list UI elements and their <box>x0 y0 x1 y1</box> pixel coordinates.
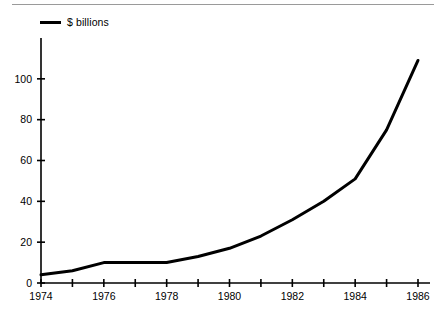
line-chart-plot: 020406080100 197419761978198019821984198… <box>0 0 446 323</box>
chart-series-layer <box>41 60 418 274</box>
x-axis-tick-label: 1976 <box>92 290 116 302</box>
series-line <box>41 60 418 274</box>
y-axis-tick-label: 100 <box>14 73 32 85</box>
y-axis-tick-label: 0 <box>26 277 32 289</box>
y-axis-tick-label: 20 <box>20 236 32 248</box>
chart-svg: 020406080100 197419761978198019821984198… <box>0 0 446 323</box>
x-axis-tick-label: 1984 <box>343 290 367 302</box>
y-axis-tick-label: 60 <box>20 154 32 166</box>
y-axis-tick-label: 80 <box>20 113 32 125</box>
y-axis-tick-label: 40 <box>20 195 32 207</box>
x-axis-tick-label: 1980 <box>218 290 242 302</box>
chart-page: $ billions 020406080100 1974197619781980… <box>0 0 446 323</box>
x-axis-tick-label: 1978 <box>155 290 179 302</box>
x-axis-tick-label: 1974 <box>29 290 53 302</box>
x-axis-tick-label: 1982 <box>281 290 305 302</box>
x-axis-tick-label: 1986 <box>406 290 430 302</box>
